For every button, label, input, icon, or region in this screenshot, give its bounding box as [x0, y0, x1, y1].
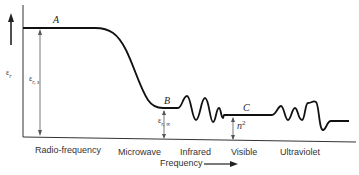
region-microwave: Microwave [118, 147, 161, 157]
infinite-permittivity-label: εr, ∞ [158, 116, 170, 127]
x-axis-label: Frequency [160, 158, 203, 168]
region-radio-frequency: Radio-frequency [35, 145, 101, 155]
permittivity-curve [23, 28, 349, 130]
point-a-label: A [53, 14, 59, 25]
y-axis-label: εr [6, 68, 12, 79]
point-c-label: C [243, 102, 250, 113]
static-permittivity-label: εr, s [29, 74, 39, 85]
refractive-index-arrow-icon [231, 117, 235, 140]
region-visible: Visible [231, 147, 257, 157]
y-axis-arrow-icon [8, 13, 14, 45]
point-b-label: B [164, 95, 170, 106]
refractive-index-squared-label: n2 [237, 119, 246, 131]
region-infrared: Infrared [180, 147, 211, 157]
frequency-arrow-icon [204, 161, 238, 167]
x-axis [23, 137, 356, 142]
region-ultraviolet: Ultraviolet [280, 147, 320, 157]
